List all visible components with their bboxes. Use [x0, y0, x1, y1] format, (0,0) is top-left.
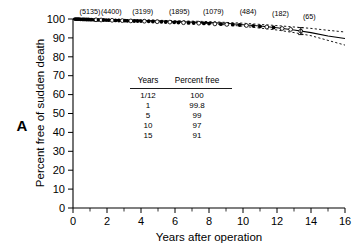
at-risk-label: (65) — [303, 12, 316, 21]
y-tick-label: 70 — [53, 69, 65, 81]
x-axis-ticks: 0 2 4 6 8 10 12 14 16 — [70, 208, 351, 227]
at-risk-label: (4400) — [101, 7, 122, 16]
table-cell-percent: 99 — [193, 111, 202, 120]
table-row: 15 91 — [144, 131, 202, 140]
x-tick-label: 10 — [237, 215, 249, 227]
at-risk-label: (3199) — [132, 7, 153, 16]
table-col-header: Years — [138, 76, 159, 85]
panel-label: A — [17, 117, 28, 134]
y-tick-label: 100 — [47, 13, 65, 25]
table-cell-years: 15 — [144, 131, 153, 140]
table-cell-years: 1/12 — [140, 91, 156, 100]
y-axis-title: Percent free of sudden death — [34, 39, 46, 187]
table-row: 10 97 — [144, 121, 202, 130]
y-tick-label: 30 — [53, 145, 65, 157]
y-tick-label: 60 — [53, 88, 65, 100]
table-cell-percent: 100 — [190, 91, 204, 100]
at-risk-label: (484) — [240, 7, 257, 16]
at-risk-label: (1079) — [203, 7, 224, 16]
y-tick-label: 10 — [53, 183, 65, 195]
at-risk-label: (1895) — [169, 7, 190, 16]
x-tick-label: 12 — [271, 215, 283, 227]
table-cell-percent: 99.8 — [189, 101, 205, 110]
y-axis-ticks: 0 10 20 30 40 50 60 70 80 90 100 — [47, 13, 73, 214]
summary-table: Years Percent free 1/12 100 1 99.8 5 99 … — [130, 76, 232, 140]
x-tick-label: 2 — [104, 215, 110, 227]
y-tick-label: 80 — [53, 51, 65, 63]
table-cell-years: 5 — [146, 111, 151, 120]
table-cell-years: 10 — [144, 121, 153, 130]
chart-canvas: 0 10 20 30 40 50 60 70 80 90 100 0 — [0, 0, 363, 249]
at-risk-annotations: (5135) (4400) (3199) (1895) (1079) (484)… — [80, 7, 316, 21]
table-row: 1 99.8 — [146, 101, 206, 110]
table-row: 5 99 — [146, 111, 202, 120]
x-tick-label: 6 — [172, 215, 178, 227]
y-tick-label: 90 — [53, 32, 65, 44]
x-tick-label: 14 — [305, 215, 317, 227]
table-cell-percent: 91 — [193, 131, 202, 140]
x-tick-label: 4 — [138, 215, 144, 227]
y-tick-label: 20 — [53, 164, 65, 176]
x-axis-title: Years after operation — [156, 231, 262, 243]
at-risk-label: (5135) — [80, 7, 101, 16]
at-risk-label: (182) — [272, 9, 289, 18]
x-tick-label: 0 — [70, 215, 76, 227]
y-tick-label: 50 — [53, 107, 65, 119]
table-cell-years: 1 — [146, 101, 151, 110]
y-tick-label: 40 — [53, 126, 65, 138]
table-cell-percent: 97 — [193, 121, 202, 130]
table-col-header: Percent free — [175, 76, 220, 85]
table-row: 1/12 100 — [140, 91, 204, 100]
y-tick-label: 0 — [59, 202, 65, 214]
survival-chart-figure: 0 10 20 30 40 50 60 70 80 90 100 0 — [0, 0, 363, 249]
x-tick-label: 16 — [339, 215, 351, 227]
x-tick-label: 8 — [206, 215, 212, 227]
